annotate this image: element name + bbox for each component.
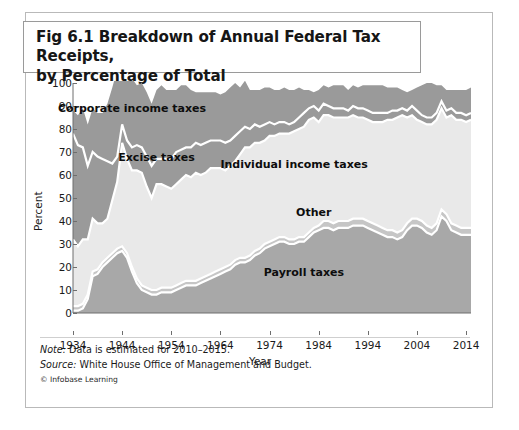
figure-panel: Fig 6.1 Breakdown of Annual Federal Tax … (25, 12, 493, 408)
y-axis-tick-label: 10 (38, 285, 72, 296)
y-axis-tick-mark (73, 198, 77, 199)
y-axis-tick-mark (73, 152, 77, 153)
y-axis-tick-label: 0 (38, 308, 72, 319)
series-label-individual-income-taxes: Individual income taxes (220, 157, 367, 170)
y-axis-tick-label: 40 (38, 216, 72, 227)
y-axis-tick-mark (73, 129, 77, 130)
series-label-payroll-taxes: Payroll taxes (264, 265, 344, 278)
series-label-excise-taxes: Excise taxes (118, 150, 195, 163)
x-axis-tick-mark (220, 331, 221, 335)
y-axis-tick-mark (73, 244, 77, 245)
chart-plot-area: Percent 0102030405060708090100 Corporate… (26, 81, 494, 331)
x-axis-tick-mark (270, 331, 271, 335)
y-axis-tick-mark (73, 290, 77, 291)
source-label: Source: (40, 359, 76, 370)
y-axis-tick-mark (73, 175, 77, 176)
note-text: Data is estimated for 2010–2015. (66, 344, 230, 355)
y-axis-tick-label: 30 (38, 239, 72, 250)
note-line: Note: Data is estimated for 2010–2015. (40, 343, 480, 358)
figure-title-box: Fig 6.1 Breakdown of Annual Federal Tax … (23, 21, 421, 73)
y-axis-ticks: 0102030405060708090100 (34, 81, 72, 331)
series-label-corporate-income-taxes: Corporate income taxes (58, 102, 206, 115)
y-axis-tick-mark (73, 83, 77, 84)
note-label: Note: (40, 344, 66, 355)
figure-notes: Note: Data is estimated for 2010–2015. S… (40, 343, 480, 384)
y-axis-tick-mark (73, 221, 77, 222)
y-axis-tick-label: 50 (38, 193, 72, 204)
stacked-area-series (26, 81, 494, 331)
y-axis-tick-label: 60 (38, 170, 72, 181)
series-label-other: Other (296, 205, 331, 218)
y-axis-tick-mark (73, 267, 77, 268)
source-text: White House Office of Management and Bud… (76, 359, 311, 370)
x-axis-tick-mark (466, 331, 467, 335)
x-axis-tick-mark (368, 331, 369, 335)
y-axis-tick-label: 70 (38, 147, 72, 158)
x-axis-tick-mark (171, 331, 172, 335)
footer-divider (40, 337, 470, 338)
source-line: Source: White House Office of Management… (40, 358, 480, 373)
y-axis-tick-label: 80 (38, 124, 72, 135)
x-axis-tick-mark (319, 331, 320, 335)
y-axis-tick-label: 20 (38, 262, 72, 273)
copyright-text: © Infobase Learning (40, 375, 480, 384)
figure-title-line-1: Fig 6.1 Breakdown of Annual Federal Tax … (36, 28, 410, 67)
x-axis-tick-mark (122, 331, 123, 335)
y-axis-tick-mark (73, 313, 77, 314)
y-axis-tick-label: 100 (38, 78, 72, 89)
x-axis-tick-mark (73, 331, 74, 335)
x-axis-tick-mark (417, 331, 418, 335)
